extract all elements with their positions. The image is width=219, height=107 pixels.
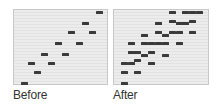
block — [68, 31, 75, 34]
block — [169, 11, 176, 14]
block — [134, 71, 141, 74]
block — [41, 53, 48, 56]
block — [28, 62, 35, 65]
block — [76, 42, 83, 45]
block — [34, 71, 41, 74]
block — [182, 11, 189, 14]
block — [121, 71, 128, 74]
block — [155, 22, 162, 25]
block — [196, 11, 203, 14]
block — [141, 54, 148, 57]
block — [141, 42, 148, 45]
block — [169, 31, 176, 34]
block — [189, 11, 196, 14]
before-caption: Before — [13, 88, 47, 102]
block — [96, 11, 103, 14]
block — [169, 20, 176, 23]
block — [162, 42, 169, 45]
block — [62, 53, 69, 56]
block — [176, 31, 183, 34]
block — [48, 62, 55, 65]
block — [176, 42, 183, 45]
block — [148, 42, 155, 45]
block — [162, 54, 169, 57]
block — [189, 31, 196, 34]
before-panel — [13, 9, 108, 85]
block — [89, 31, 96, 34]
block — [189, 20, 196, 23]
block — [121, 82, 128, 85]
block — [128, 42, 135, 45]
block — [148, 51, 155, 54]
block — [121, 62, 128, 65]
block — [55, 42, 62, 45]
block — [21, 82, 28, 85]
block — [134, 51, 141, 54]
block — [148, 62, 155, 65]
block — [155, 42, 162, 45]
block — [155, 31, 162, 34]
after-panel — [113, 9, 209, 85]
block — [162, 34, 169, 37]
block — [182, 22, 189, 25]
block — [82, 22, 89, 25]
block — [141, 34, 148, 37]
after-caption: After — [113, 88, 137, 102]
block — [134, 59, 141, 62]
block — [128, 62, 135, 65]
